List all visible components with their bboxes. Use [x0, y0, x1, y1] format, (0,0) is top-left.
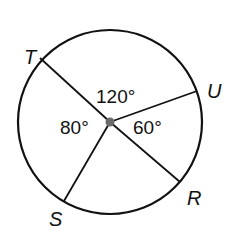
angle-label-TU: 120°: [96, 86, 135, 107]
angle-label-UR: 60°: [133, 117, 162, 138]
angle-label-TS: 80°: [60, 117, 89, 138]
circle-diagram: T U R S 120° 80° 60°: [0, 0, 230, 233]
point-label-T: T: [24, 46, 38, 68]
point-label-R: R: [187, 187, 201, 209]
point-label-S: S: [49, 208, 63, 230]
center-point: [106, 118, 115, 127]
point-label-U: U: [207, 80, 222, 102]
